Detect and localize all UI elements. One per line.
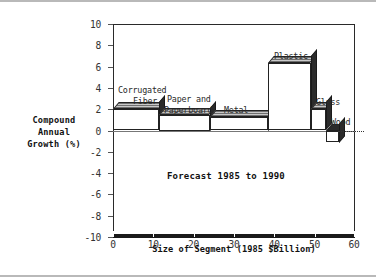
- bar-label-glass: Glass: [316, 97, 340, 107]
- bar-label-corrugated-line1: Corrugated: [118, 85, 166, 95]
- zero-baseline: [113, 131, 355, 132]
- bar-face: [159, 115, 209, 131]
- bar-label-paper-line2: Paperboard: [164, 105, 212, 115]
- y-tick-label-neg10: -10: [85, 232, 101, 243]
- y-tick-8: 8: [108, 45, 113, 46]
- bar-label-wood: Wood: [331, 117, 350, 127]
- y-tick-label-0: 0: [96, 125, 101, 136]
- bar-metal: [210, 117, 269, 131]
- bar-face: [326, 131, 339, 143]
- plot-area: 10 8 6 4 2 0 -2 -4 -6 -8 -10: [113, 24, 355, 237]
- y-tick-label-10: 10: [90, 19, 101, 30]
- bar-label-corrugated-line2: Fiber: [133, 96, 157, 106]
- bar-paper-and-paperboard: [159, 115, 209, 131]
- bar-face: [268, 63, 310, 130]
- y-tick-label-neg4: -4: [90, 168, 101, 179]
- y-axis-title: Compound Annual Growth (%): [2, 114, 106, 151]
- y-tick-label-8: 8: [96, 40, 101, 51]
- y-tick-label-2: 2: [96, 104, 101, 115]
- y-tick-neg2: -2: [108, 152, 113, 153]
- y-tick-neg8: -8: [108, 216, 113, 217]
- bar-corrugated-fiber: [113, 109, 159, 130]
- y-tick-label-4: 4: [96, 82, 101, 93]
- y-tick-4: 4: [108, 88, 113, 89]
- forecast-annotation: Forecast 1985 to 1990: [167, 171, 285, 181]
- y-tick-neg4: -4: [108, 173, 113, 174]
- y-tick-label-neg6: -6: [90, 189, 101, 200]
- y-tick-label-6: 6: [96, 61, 101, 72]
- zero-baseline-extension: [338, 131, 364, 132]
- bar-face: [311, 109, 326, 130]
- bar-wood: [326, 131, 339, 143]
- x-tick-30: [234, 231, 235, 237]
- y-tick-10: 10: [108, 24, 113, 25]
- x-axis-title: Size of Segment (1985 $Billion): [113, 244, 355, 254]
- y-tick-6: 6: [108, 67, 113, 68]
- y-tick-neg6: -6: [108, 194, 113, 195]
- x-tick-40: [274, 231, 275, 237]
- bar-glass: [311, 109, 326, 130]
- bar-label-metal: Metal: [224, 105, 248, 115]
- bar-label-paper-line1: Paper and: [167, 94, 211, 104]
- bar-label-plastic: Plastic: [274, 51, 308, 61]
- x-tick-50: [315, 231, 316, 237]
- bar-face: [210, 117, 269, 131]
- x-tick-10: [153, 231, 154, 237]
- chart-figure: Compound Annual Growth (%) 10 8 6 4 2 0 …: [0, 0, 376, 277]
- bar-face: [113, 109, 159, 130]
- x-tick-0: [113, 231, 114, 237]
- y-tick-label-neg8: -8: [90, 210, 101, 221]
- x-tick-20: [194, 231, 195, 237]
- x-tick-60: [354, 231, 355, 237]
- bar-plastic: [268, 63, 310, 130]
- y-tick-label-neg2: -2: [90, 146, 101, 157]
